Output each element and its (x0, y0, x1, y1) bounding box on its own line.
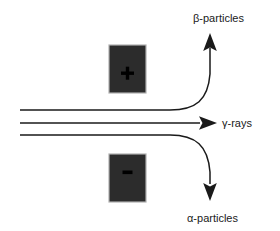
minus-sign (123, 171, 133, 175)
negative-plate-body (109, 154, 146, 202)
positive-plate (109, 45, 146, 93)
alpha-particles-label: α-particles (187, 212, 238, 224)
beta-particles-label: β-particles (193, 12, 244, 24)
diagram-canvas: β-particles γ-rays α-particles (0, 0, 280, 231)
negative-plate (109, 154, 146, 202)
gamma-rays-label: γ-rays (222, 117, 252, 129)
radiation-deflection-diagram: β-particles γ-rays α-particles (0, 0, 280, 231)
